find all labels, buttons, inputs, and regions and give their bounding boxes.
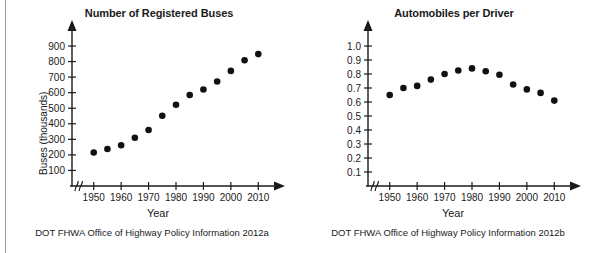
- source-caption-autos: DOT FHWA Office of Highway Policy Inform…: [296, 227, 592, 238]
- svg-text:1990: 1990: [488, 192, 511, 203]
- data-point: [214, 78, 221, 85]
- x-axis-label-buses: Year: [0, 207, 296, 219]
- svg-text:2010: 2010: [543, 192, 566, 203]
- svg-text:1960: 1960: [406, 192, 429, 203]
- data-point: [145, 127, 152, 134]
- svg-text:0.2: 0.2: [347, 153, 361, 164]
- svg-text:0.4: 0.4: [347, 125, 361, 136]
- svg-text:300: 300: [48, 134, 65, 145]
- data-point: [428, 76, 435, 83]
- data-point: [551, 97, 558, 104]
- chart-panel-autos: Automobiles per Driver Automobiles per l…: [296, 0, 592, 253]
- svg-text:1980: 1980: [165, 192, 188, 203]
- data-point: [482, 68, 489, 75]
- svg-text:1960: 1960: [110, 192, 133, 203]
- data-point: [241, 57, 248, 64]
- data-point: [159, 112, 166, 119]
- svg-text:2000: 2000: [516, 192, 539, 203]
- svg-text:1950: 1950: [379, 192, 402, 203]
- svg-text:100: 100: [48, 165, 65, 176]
- svg-text:900: 900: [48, 41, 65, 52]
- data-point: [524, 86, 531, 93]
- svg-text:0.5: 0.5: [347, 111, 361, 122]
- data-point: [469, 65, 476, 72]
- svg-text:1950: 1950: [83, 192, 106, 203]
- data-point: [537, 90, 544, 97]
- data-point: [414, 83, 421, 90]
- svg-text:600: 600: [48, 87, 65, 98]
- data-point: [186, 92, 193, 99]
- data-point: [386, 92, 393, 99]
- data-point: [441, 71, 448, 78]
- svg-text:800: 800: [48, 56, 65, 67]
- chart-panel-buses: Number of Registered Buses Buses (thousa…: [0, 0, 296, 253]
- svg-text:1980: 1980: [461, 192, 484, 203]
- svg-text:1970: 1970: [433, 192, 456, 203]
- svg-text:200: 200: [48, 149, 65, 160]
- svg-text:0.1: 0.1: [347, 167, 361, 178]
- figure-page: Number of Registered Buses Buses (thousa…: [0, 0, 592, 253]
- svg-text:2000: 2000: [220, 192, 243, 203]
- data-point: [455, 67, 462, 74]
- data-point: [400, 85, 407, 92]
- data-point: [496, 71, 503, 78]
- data-point: [118, 142, 125, 149]
- svg-text:0.8: 0.8: [347, 69, 361, 80]
- svg-text:0.3: 0.3: [347, 139, 361, 150]
- svg-text:1970: 1970: [137, 192, 160, 203]
- svg-text:400: 400: [48, 118, 65, 129]
- source-caption-buses: DOT FHWA Office of Highway Policy Inform…: [0, 227, 296, 238]
- data-point: [104, 146, 111, 153]
- data-point: [228, 68, 235, 75]
- svg-text:1.0: 1.0: [347, 41, 361, 52]
- svg-text:0.9: 0.9: [347, 55, 361, 66]
- data-point: [200, 86, 207, 93]
- svg-text:0.6: 0.6: [347, 97, 361, 108]
- svg-text:2010: 2010: [247, 192, 270, 203]
- data-point: [510, 81, 517, 88]
- data-point: [132, 134, 139, 141]
- data-point: [90, 149, 97, 156]
- data-point: [255, 51, 262, 58]
- data-point: [173, 102, 180, 109]
- svg-text:0.7: 0.7: [347, 83, 361, 94]
- svg-text:500: 500: [48, 103, 65, 114]
- svg-text:700: 700: [48, 72, 65, 83]
- svg-text:1990: 1990: [192, 192, 215, 203]
- x-axis-label-autos: Year: [296, 207, 592, 219]
